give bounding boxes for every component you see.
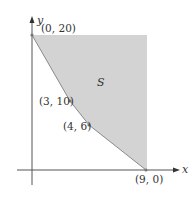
vertex-point: [144, 168, 147, 171]
region-label: S: [97, 76, 105, 89]
vertex-label: (3, 10): [39, 95, 74, 107]
y-axis-arrow-icon: [30, 16, 35, 23]
vertex-label: (0, 20): [41, 22, 76, 34]
vertex-label: (4, 6): [63, 120, 91, 132]
diagram-canvas: y x S (0, 20) (3, 10) (4, 6) (9, 0): [0, 0, 192, 197]
x-axis-arrow-icon: [173, 168, 180, 173]
x-axis-label: x: [182, 163, 189, 176]
vertex-label: (9, 0): [135, 173, 163, 185]
vertex-point: [30, 33, 33, 36]
